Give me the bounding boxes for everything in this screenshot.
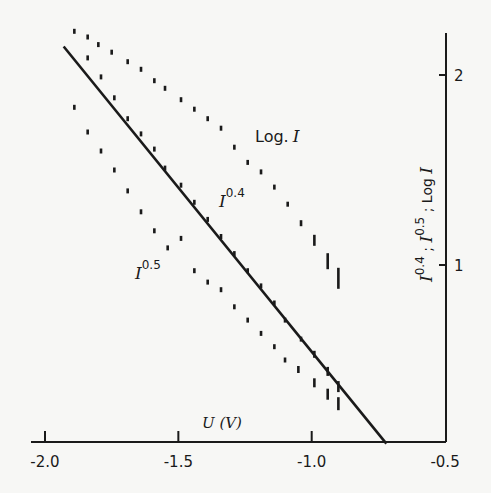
data-point: [284, 358, 287, 363]
data-point: [284, 318, 287, 323]
data-point: [180, 183, 183, 188]
data-point: [193, 107, 196, 112]
data-point: [220, 126, 223, 131]
data-point: [297, 366, 300, 373]
label-i04: I0.4: [218, 186, 245, 211]
data-point: [260, 331, 263, 336]
data-point: [86, 35, 89, 40]
data-point: [164, 166, 167, 171]
y-axis-title: I0.4 ; I0.5 ; Log I: [413, 167, 436, 283]
chart: -2.0-1.5-1.0-0.5 12 U (V) I0.4 ; I0.5 ; …: [0, 0, 491, 493]
data-point: [86, 55, 89, 60]
data-point: [313, 378, 316, 387]
data-point: [180, 236, 183, 241]
data-point: [337, 397, 340, 410]
data-point: [140, 131, 143, 136]
x-axis-title: U (V): [202, 414, 242, 432]
data-point: [273, 185, 276, 190]
data-point: [153, 147, 156, 152]
data-point: [246, 318, 249, 323]
y-tick-label: 2: [454, 67, 464, 85]
data-point: [113, 168, 116, 173]
data-point: [273, 301, 276, 306]
data-point: [113, 95, 116, 100]
data-point: [260, 283, 263, 288]
label-i05: I0.5: [134, 258, 161, 283]
x-ticks: -2.0-1.5-1.0-0.5: [30, 431, 459, 471]
data-point: [300, 220, 303, 226]
x-tick-label: -0.5: [430, 453, 459, 471]
x-tick-label: -2.0: [30, 453, 59, 471]
data-point: [164, 86, 167, 91]
data-point: [206, 217, 209, 222]
data-point: [206, 116, 209, 121]
data-point: [110, 50, 113, 55]
data-point: [140, 209, 143, 214]
data-point: [153, 228, 156, 233]
data-point: [206, 280, 209, 285]
y-tick-label: 1: [454, 257, 464, 275]
data-point: [326, 367, 329, 376]
data-point: [97, 42, 100, 47]
data-point: [273, 344, 276, 349]
data-point: [140, 67, 143, 72]
data-point: [326, 389, 329, 400]
data-point: [246, 268, 249, 273]
label-log-i: Log.I: [255, 126, 300, 146]
data-point: [260, 169, 263, 174]
data-point: [100, 74, 103, 79]
x-tick-label: -1.0: [297, 453, 326, 471]
data-point: [193, 200, 196, 205]
data-point: [126, 59, 129, 64]
data-point: [337, 381, 340, 392]
data-point: [246, 160, 249, 165]
data-points: [73, 29, 340, 410]
y-ticks: 12: [439, 67, 464, 275]
data-point: [220, 287, 223, 292]
data-point: [73, 105, 76, 110]
data-point: [86, 130, 89, 135]
data-point: [326, 253, 329, 269]
data-point: [313, 351, 316, 358]
data-point: [126, 188, 129, 193]
data-point: [166, 245, 169, 250]
data-point: [233, 304, 236, 309]
data-point: [153, 78, 156, 83]
data-point: [100, 149, 103, 154]
data-point: [126, 116, 129, 121]
x-tick-label: -1.5: [164, 453, 193, 471]
data-point: [73, 29, 76, 34]
data-point: [193, 268, 196, 273]
data-point: [300, 337, 303, 342]
data-point: [337, 268, 340, 289]
data-point: [220, 234, 223, 239]
data-point: [180, 97, 183, 102]
svg-text:I0.4 ; I0.5 ; Log I: I0.4 ; I0.5 ; Log I: [413, 167, 436, 283]
data-point: [286, 202, 289, 207]
data-point: [233, 251, 236, 256]
data-point: [313, 235, 316, 246]
data-point: [233, 145, 236, 150]
